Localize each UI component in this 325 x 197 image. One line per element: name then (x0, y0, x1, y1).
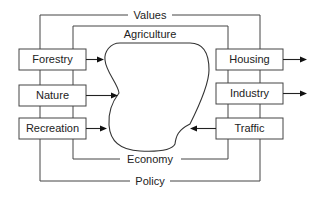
box-industry: Industry (216, 83, 283, 104)
forestry-label: Forestry (32, 53, 73, 65)
box-traffic: Traffic (216, 118, 283, 139)
box-nature: Nature (19, 85, 86, 106)
policy-line-right (170, 139, 260, 181)
industry-label: Industry (230, 87, 270, 99)
policy-line-left (40, 139, 130, 181)
land-use-diagram: Values Agriculture Economy Policy Forest… (0, 0, 325, 197)
arrowhead-icon (190, 126, 197, 132)
economy-line-right (181, 139, 228, 159)
agriculture-region (105, 43, 209, 151)
economy-label: Economy (127, 153, 173, 165)
agriculture-label: Agriculture (124, 28, 177, 40)
policy-label: Policy (135, 175, 165, 187)
arrow-nature (86, 93, 118, 99)
arrow-housing-out (283, 57, 307, 63)
arrow-forestry (86, 57, 104, 63)
arrowhead-icon (100, 126, 107, 132)
recreation-label: Recreation (26, 122, 79, 134)
economy-line-left (73, 139, 120, 159)
housing-label: Housing (229, 53, 269, 65)
box-recreation: Recreation (19, 118, 86, 139)
traffic-label: Traffic (235, 122, 265, 134)
nature-label: Nature (36, 89, 69, 101)
arrow-traffic-in (190, 126, 216, 132)
arrow-recreation (86, 126, 107, 132)
arrowhead-icon (300, 91, 307, 97)
values-label: Values (134, 9, 167, 21)
arrow-industry-out (283, 91, 307, 97)
arrowhead-icon (300, 57, 307, 63)
arrowhead-icon (97, 57, 104, 63)
box-forestry: Forestry (19, 49, 86, 70)
box-housing: Housing (216, 49, 283, 70)
